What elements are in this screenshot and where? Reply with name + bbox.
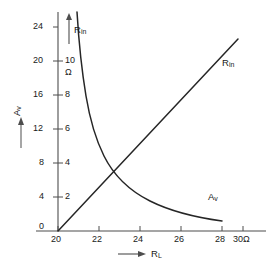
x-tick-label-28: 28 [215,235,225,244]
curve-label-av-subscript: v [214,195,218,202]
y-left-tick-label-0: 0 [39,222,44,231]
av-up-arrow-icon [18,117,24,148]
x-axis-title-subscript: L [158,252,162,259]
y-left-tick-label-4: 4 [39,192,44,201]
y-right-tick-label-8: 8 [65,90,70,99]
y-axis-title-subscript: v [15,106,22,110]
x-major-ticks [58,226,243,231]
x-tick-label-20: 20 [51,235,61,244]
curve-label-av: Av [208,192,218,202]
rin-up-arrow-icon [66,13,72,44]
y-left-tick-label-24: 24 [33,22,43,31]
y-axis-title: Av [12,106,22,116]
y-left-tick-label-8: 8 [39,158,44,167]
curve-av [77,12,222,221]
plot-area [0,0,276,274]
x-tick-label-22: 22 [92,235,102,244]
x-tick-label-30: 30Ω [233,235,250,244]
x-axis-title-text: R [151,248,158,259]
ohm-unit-label: Ω [65,68,72,77]
rin-arrow-label: Rin [74,25,86,35]
y-axis-title-text: A [11,110,22,116]
y-right-tick-label-2: 2 [65,192,70,201]
rin-arrow-label-text: R [74,24,81,35]
x-axis-title: RL [151,249,162,259]
rin-arrow-label-subscript: in [81,28,86,35]
rl-right-arrow-icon [118,251,146,257]
curve-label-rin-subscript: in [229,61,234,68]
curve-label-rin-text: R [222,57,229,68]
y-right-tick-label-4: 4 [65,158,70,167]
chart-figure: 24 20 16 12 8 4 0 10 8 6 4 2 Ω 20 22 24 … [0,0,276,274]
x-tick-label-24: 24 [133,235,143,244]
y-left-ticks [53,27,58,197]
y-right-tick-label-10: 10 [65,56,75,65]
y-left-tick-label-16: 16 [33,90,43,99]
y-left-tick-label-20: 20 [33,56,43,65]
y-left-tick-label-12: 12 [33,124,43,133]
x-tick-label-26: 26 [174,235,184,244]
y-right-ticks [58,61,63,197]
y-right-tick-label-6: 6 [65,124,70,133]
curve-label-rin: Rin [222,58,234,68]
